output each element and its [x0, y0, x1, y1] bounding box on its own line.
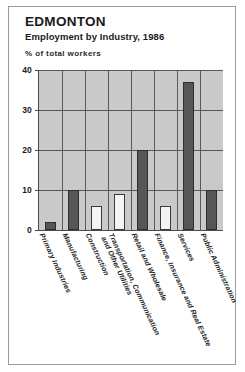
y-axis-title: % of total workers [25, 49, 101, 58]
bar [183, 82, 194, 230]
x-tick-label: Transportation, Communication and Other … [99, 232, 161, 340]
bar [114, 194, 125, 230]
title-block: EDMONTON Employment by Industry, 1986 [25, 15, 225, 43]
chart-figure: EDMONTON Employment by Industry, 1986 % … [0, 0, 245, 372]
bar [45, 222, 56, 230]
bar [68, 190, 79, 230]
chart-subtitle: Employment by Industry, 1986 [25, 31, 225, 43]
plot-area [38, 70, 223, 231]
chart-title: EDMONTON [25, 15, 225, 29]
bar [91, 206, 102, 230]
bar [206, 190, 217, 230]
bar [137, 150, 148, 230]
x-tick-label: Services [175, 232, 195, 263]
x-tick-label: Public Administration [198, 232, 238, 304]
bar-series [39, 70, 223, 230]
x-axis: Primary IndustriesManufacturingConstruct… [38, 232, 238, 362]
bar [160, 206, 171, 230]
